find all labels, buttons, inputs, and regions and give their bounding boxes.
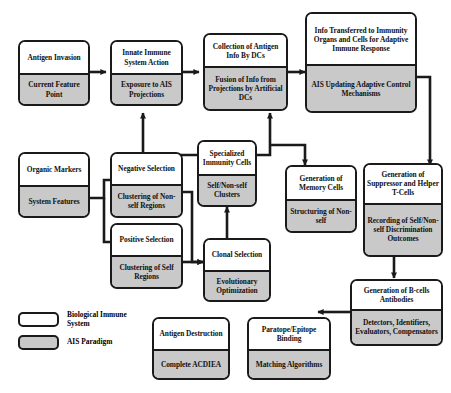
node-negative-selection[interactable]: Negative Selection Clustering of Non-sel… bbox=[110, 152, 183, 218]
legend: Biological Immune System AIS Paradigm bbox=[18, 310, 141, 356]
node-ais-label: System Features bbox=[20, 185, 88, 216]
node-ais-label: Current Feature Point bbox=[20, 73, 88, 104]
node-innate-immune-system-action[interactable]: Innate Immune System Action Exposure to … bbox=[110, 40, 183, 106]
node-bio-label: Collection of Antigen Info By DCs bbox=[205, 35, 286, 66]
link-info-to-suppressor bbox=[417, 77, 430, 165]
node-ais-label: Recording of Self/Non-self Discriminatio… bbox=[365, 203, 441, 255]
legend-label-ais: AIS Paradigm bbox=[67, 337, 112, 346]
flowchart-diagram: Antigen Invasion Current Feature Point I… bbox=[0, 0, 451, 393]
node-generation-of-memory-cells[interactable]: Generation of Memory Cells Structuring o… bbox=[285, 165, 357, 233]
node-bio-label: Organic Markers bbox=[20, 154, 88, 185]
figure-caption bbox=[0, 381, 451, 392]
legend-swatch-ais bbox=[18, 335, 59, 350]
node-bio-label: Antigen Destruction bbox=[154, 319, 228, 349]
node-ais-label: AIS Updating Adaptive Control Mechanisms bbox=[307, 64, 415, 111]
node-ais-label: Structuring of Non-self bbox=[287, 199, 355, 231]
node-organic-markers[interactable]: Organic Markers System Features bbox=[18, 152, 90, 218]
node-bio-label: Specialized Immunity Cells bbox=[199, 142, 255, 174]
legend-label-biological: Biological Immune System bbox=[67, 310, 141, 329]
node-positive-selection[interactable]: Positive Selection Clustering of Self Re… bbox=[110, 223, 183, 289]
node-bio-label: Paratope/Epitope Binding bbox=[249, 319, 329, 349]
link-specialized-to-info bbox=[257, 113, 270, 155]
node-specialized-immunity-cells[interactable]: Specialized Immunity Cells Self/Non-self… bbox=[197, 140, 257, 207]
node-bio-label: Generation of B-cells Antibodies bbox=[352, 281, 441, 309]
node-ais-label: Clustering of Non-self Regions bbox=[112, 184, 181, 216]
node-bio-label: Generation of Memory Cells bbox=[287, 167, 355, 199]
node-ais-label: Self/Non-self Clusters bbox=[199, 174, 255, 206]
node-ais-label: Evolutionary Optimization bbox=[205, 270, 269, 300]
node-bio-label: Clonal Selection bbox=[205, 240, 269, 270]
node-ais-label: Clustering of Self Regions bbox=[112, 255, 181, 287]
node-bio-label: Info Transferred to Immunity Organs and … bbox=[307, 14, 415, 64]
legend-item-ais: AIS Paradigm bbox=[18, 335, 141, 350]
node-bcells-antibodies[interactable]: Generation of B-cells Antibodies Detecto… bbox=[350, 279, 443, 346]
node-ais-label: Matching Algorithms bbox=[249, 349, 329, 379]
node-antigen-invasion[interactable]: Antigen Invasion Current Feature Point bbox=[18, 40, 90, 106]
node-ais-label: Detectors, Identifiers, Evaluators, Comp… bbox=[352, 309, 441, 344]
link-specialized-to-memory bbox=[270, 145, 305, 165]
node-info-transferred[interactable]: Info Transferred to Immunity Organs and … bbox=[305, 12, 417, 113]
node-clonal-selection[interactable]: Clonal Selection Evolutionary Optimizati… bbox=[203, 238, 271, 302]
node-bio-label: Innate Immune System Action bbox=[112, 42, 181, 73]
node-collection-of-antigen-info[interactable]: Collection of Antigen Info By DCs Fusion… bbox=[203, 33, 288, 111]
node-bio-label: Negative Selection bbox=[112, 154, 181, 184]
node-bio-label: Antigen Invasion bbox=[20, 42, 88, 73]
node-ais-label: Complete ACDIEA bbox=[154, 349, 228, 379]
node-antigen-destruction[interactable]: Antigen Destruction Complete ACDIEA bbox=[152, 317, 230, 380]
node-ais-label: Exposure to AIS Projections bbox=[112, 73, 181, 104]
node-bio-label: Generation of Suppressor and Helper T-Ce… bbox=[365, 165, 441, 203]
node-bio-label: Positive Selection bbox=[112, 225, 181, 255]
node-paratope-epitope-binding[interactable]: Paratope/Epitope Binding Matching Algori… bbox=[247, 317, 331, 380]
node-ais-label: Fusion of Info from Projections by Artif… bbox=[205, 66, 286, 109]
link-specialized-to-innate bbox=[143, 113, 197, 155]
legend-swatch-biological bbox=[18, 312, 59, 327]
node-suppressor-helper-tcells[interactable]: Generation of Suppressor and Helper T-Ce… bbox=[363, 163, 443, 257]
legend-item-biological: Biological Immune System bbox=[18, 310, 141, 329]
